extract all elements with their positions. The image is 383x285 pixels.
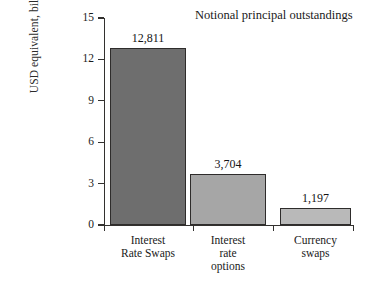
y-axis-tick-label-wrap: 0 (64, 219, 94, 231)
x-axis-category-label-line: options (176, 260, 280, 273)
x-axis-category-label-line: rate (176, 247, 280, 260)
y-axis-tick (98, 59, 104, 60)
x-axis-tick (193, 226, 194, 231)
bar-chart: USD equivalent, billions Notional princi… (0, 0, 383, 285)
y-axis-tick (98, 100, 104, 101)
y-axis-tick-label-wrap: 9 (64, 95, 94, 107)
bar (110, 48, 186, 225)
x-axis-category-label-line: Currency (266, 234, 365, 247)
bar-value-label: 12,811 (110, 32, 186, 44)
y-axis-tick (98, 183, 104, 184)
y-axis-line (104, 18, 105, 226)
x-axis-category-label: Interestrateoptions (176, 234, 280, 274)
y-axis-tick-label: 9 (68, 95, 94, 107)
x-axis-category-label: Currencyswaps (266, 234, 365, 260)
x-axis-category-label-line: swaps (266, 247, 365, 260)
x-axis-category-label-line: Interest (176, 234, 280, 247)
y-axis-tick-label: 12 (68, 53, 94, 65)
y-axis-tick-label-wrap: 3 (64, 178, 94, 190)
y-axis-tick-label: 6 (68, 136, 94, 148)
y-axis-tick-label: 15 (68, 12, 94, 24)
plot-area: 03691215 12,8113,7041,197 InterestRate S… (0, 0, 383, 285)
bar (190, 174, 266, 225)
bar (280, 208, 351, 225)
bar-value-label: 3,704 (190, 158, 266, 170)
x-axis-tick (353, 226, 354, 231)
y-axis-tick-label-wrap: 15 (64, 12, 94, 24)
y-axis-tick-label-wrap: 6 (64, 136, 94, 148)
y-axis-tick-label-wrap: 12 (64, 53, 94, 65)
y-axis-tick (98, 142, 104, 143)
y-axis-tick-label: 0 (68, 219, 94, 231)
x-axis-tick (104, 226, 105, 231)
y-axis-tick (98, 17, 104, 18)
x-axis-tick (273, 226, 274, 231)
bar-value-label: 1,197 (280, 192, 351, 204)
y-axis-tick-label: 3 (68, 178, 94, 190)
